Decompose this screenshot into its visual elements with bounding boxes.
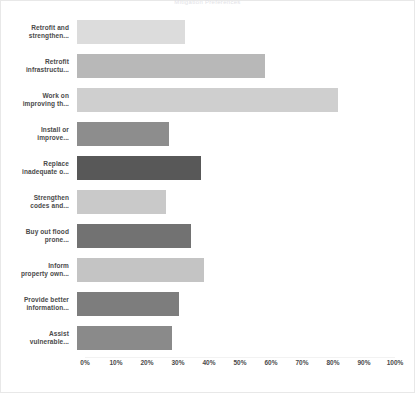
plot-area: Retrofit and strengthen...Retrofit infra… [1,15,415,355]
bar-track [77,219,395,253]
axis-tick-label: 10% [109,359,122,366]
bar-row: Work on improving th... [1,83,415,117]
bar [77,122,169,146]
axis-tick-label: 60% [264,359,277,366]
bar [77,258,204,282]
bar [77,156,201,180]
category-label: Inform property own... [1,262,77,279]
bar-track [77,49,395,83]
bar-track [77,83,395,117]
bar-row: Replace inadequate o... [1,151,415,185]
bar-track [77,15,395,49]
bar [77,54,265,78]
category-label: Retrofit infrastructu... [1,58,77,75]
axis-tick-label: 20% [140,359,153,366]
bar-row: Assist vulnerable... [1,321,415,355]
axis-tick-label: 90% [357,359,370,366]
bar-track [77,151,395,185]
category-label: Strengthen codes and... [1,194,77,211]
chart-title: Mitigation Preferences [1,0,414,9]
category-label: Assist vulnerable... [1,330,77,347]
bar-row: Strengthen codes and... [1,185,415,219]
bar-row: Retrofit and strengthen... [1,15,415,49]
bar-row: Install or improve... [1,117,415,151]
bar [77,292,179,316]
axis-tick-label: 30% [171,359,184,366]
axis-tick-label: 40% [202,359,215,366]
bar [77,190,166,214]
category-label: Provide better information... [1,296,77,313]
bar-track [77,287,395,321]
axis-tick-label: 70% [295,359,308,366]
bar-row: Provide better information... [1,287,415,321]
bar-track [77,117,395,151]
axis-baseline [85,357,395,358]
axis-tick-label: 50% [233,359,246,366]
bar [77,224,191,248]
bar-track [77,321,395,355]
axis-tick-label: 0% [80,359,89,366]
x-axis: 0%10%20%30%40%50%60%70%80%90%100% [1,359,415,377]
bar-track [77,185,395,219]
bar [77,326,172,350]
axis-tick-label: 80% [326,359,339,366]
category-label: Retrofit and strengthen... [1,24,77,41]
bar-row: Buy out flood prone... [1,219,415,253]
axis-tick-label: 100% [387,359,404,366]
bar-row: Retrofit infrastructu... [1,49,415,83]
bar-track [77,253,395,287]
bar [77,20,185,44]
category-label: Install or improve... [1,126,77,143]
bar-row: Inform property own... [1,253,415,287]
bar [77,88,338,112]
chart-container: Mitigation Preferences Retrofit and stre… [0,0,415,393]
category-label: Work on improving th... [1,92,77,109]
category-label: Replace inadequate o... [1,160,77,177]
category-label: Buy out flood prone... [1,228,77,245]
